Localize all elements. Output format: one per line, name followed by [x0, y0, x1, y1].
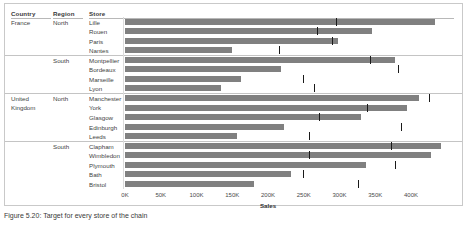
- target-reference-marker: [309, 132, 310, 140]
- target-reference-marker: [319, 113, 320, 121]
- x-axis-tick-label: 50K: [155, 192, 166, 198]
- sales-bar[interactable]: [125, 143, 441, 149]
- store-label: Rouen: [89, 28, 107, 35]
- chart-container: Country Region Store FranceUnitedKingdom…: [4, 3, 463, 206]
- sales-bar[interactable]: [125, 57, 395, 63]
- region-label: North: [53, 19, 68, 26]
- sales-bar[interactable]: [125, 38, 338, 44]
- store-label: Paris: [89, 38, 103, 45]
- store-label: Glasgow: [89, 114, 113, 121]
- country-label: Kingdom: [11, 104, 35, 111]
- column-header-region: Region: [53, 10, 75, 17]
- target-reference-marker: [398, 65, 399, 73]
- group-separator: [5, 93, 462, 94]
- store-label: Manchester: [89, 95, 121, 102]
- store-label: Lyon: [89, 85, 102, 92]
- target-reference-marker: [395, 161, 396, 169]
- target-reference-marker: [303, 170, 304, 178]
- target-reference-marker: [303, 75, 304, 83]
- store-label: Wimbledon: [89, 152, 120, 159]
- target-reference-marker: [401, 123, 402, 131]
- sales-bar[interactable]: [125, 95, 419, 101]
- target-reference-marker: [391, 142, 392, 150]
- sales-bar[interactable]: [125, 181, 254, 187]
- x-axis-tick-label: 200K: [261, 192, 275, 198]
- target-reference-marker: [358, 180, 359, 188]
- store-label: Montpellier: [89, 57, 119, 64]
- sales-bar[interactable]: [125, 114, 361, 120]
- store-label: Lille: [89, 19, 100, 26]
- sales-bar[interactable]: [125, 28, 372, 34]
- sales-bar[interactable]: [125, 171, 291, 177]
- sales-bar[interactable]: [125, 133, 237, 139]
- country-label: United: [11, 95, 29, 102]
- sales-bar[interactable]: [125, 66, 281, 72]
- store-label: Bath: [89, 171, 102, 178]
- sales-bar[interactable]: [125, 152, 431, 158]
- sales-bar[interactable]: [125, 76, 241, 82]
- sales-bar[interactable]: [125, 19, 435, 25]
- column-header-store: Store: [89, 10, 105, 17]
- region-label: South: [53, 57, 69, 64]
- target-reference-marker: [429, 94, 430, 102]
- store-label: York: [89, 104, 101, 111]
- target-reference-marker: [367, 104, 368, 112]
- store-label: Marseille: [89, 76, 114, 83]
- column-header-country: Country: [11, 10, 35, 17]
- x-axis-tick-label: 250K: [297, 192, 311, 198]
- sales-bar[interactable]: [125, 105, 407, 111]
- store-label: Leeds: [89, 133, 106, 140]
- x-axis-tick-label: 100K: [189, 192, 203, 198]
- store-label: Nantes: [89, 47, 109, 54]
- x-axis-tick-label: 0K: [121, 192, 128, 198]
- target-reference-marker: [309, 151, 310, 159]
- target-reference-marker: [279, 46, 280, 54]
- group-separator: [5, 55, 462, 56]
- sales-bar[interactable]: [125, 162, 366, 168]
- plot-left-rule: [123, 17, 124, 189]
- store-label: Bristol: [89, 181, 106, 188]
- sales-bar[interactable]: [125, 85, 221, 91]
- region-label: South: [53, 143, 69, 150]
- x-axis-tick-label: 400K: [404, 192, 418, 198]
- group-separator: [5, 141, 462, 142]
- store-label: Edinburgh: [89, 124, 117, 131]
- country-label: France: [11, 19, 30, 26]
- store-label: Bordeaux: [89, 66, 116, 73]
- store-label: Plymouth: [89, 162, 115, 169]
- x-axis-tick-label: 300K: [332, 192, 346, 198]
- region-label: North: [53, 95, 68, 102]
- figure-caption: Figure 5.20: Target for every store of t…: [4, 212, 147, 219]
- sales-bar[interactable]: [125, 124, 284, 130]
- sales-bar[interactable]: [125, 47, 232, 53]
- target-reference-marker: [370, 56, 371, 64]
- store-label: Clapham: [89, 143, 114, 150]
- x-axis-tick-label: 150K: [225, 192, 239, 198]
- target-reference-marker: [317, 27, 318, 35]
- x-axis-title: Sales: [260, 202, 276, 209]
- target-reference-marker: [332, 37, 333, 45]
- target-reference-marker: [314, 84, 315, 92]
- x-axis-tick-label: 350K: [368, 192, 382, 198]
- target-reference-marker: [336, 18, 337, 26]
